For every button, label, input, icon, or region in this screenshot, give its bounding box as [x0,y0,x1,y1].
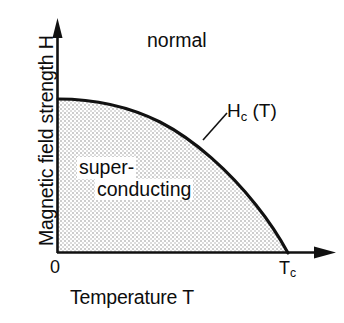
hc-label-arg-text: (T) [252,100,276,121]
x-axis-tc-tick-label: Tc [279,259,296,280]
superconducting-region-label: super- conducting [77,157,193,200]
critical-field-curve-label: Hc (T) [227,101,277,124]
hc-label-main: H [227,100,241,121]
x-axis-label: Temperature T [70,288,194,308]
superconducting-label-line-2: conducting [95,179,193,201]
normal-region-label: normal [147,31,207,51]
y-axis-label: Magnetic field strength H [37,16,57,266]
x-axis-origin-tick-label: 0 [50,258,60,276]
superconducting-label-line-1: super- [77,157,136,179]
tc-tick-subscript: c [290,266,296,280]
tc-tick-main: T [279,258,290,278]
